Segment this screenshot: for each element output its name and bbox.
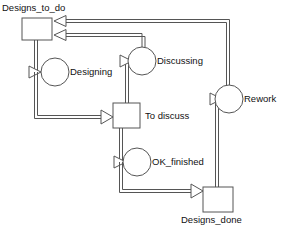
transition-label-designing: Designing xyxy=(70,66,112,77)
place-label-designs-done: Designs_done xyxy=(181,214,242,225)
transition-label-discussing: Discussing xyxy=(157,55,203,66)
transition-label-rework: Rework xyxy=(244,93,276,104)
place-designs_to_do[interactable] xyxy=(22,18,52,40)
place-label-to-discuss: To discuss xyxy=(145,110,189,121)
transition-rework[interactable] xyxy=(215,85,243,113)
place-label-designs-to-do: Designs_to_do xyxy=(2,2,65,13)
transition-designing[interactable] xyxy=(41,58,69,86)
diagram-canvas: Designs_to_do Designing Discussing Rewor… xyxy=(0,0,284,231)
arc-discussing-designs_to_do xyxy=(54,30,145,48)
petri-net-graphic xyxy=(0,0,284,231)
transition-ok_finished[interactable] xyxy=(123,148,151,176)
place-to_discuss[interactable] xyxy=(113,103,140,128)
place-designs_done[interactable] xyxy=(203,187,233,212)
transition-discussing[interactable] xyxy=(128,47,156,75)
transition-label-ok-finished: OK_finished xyxy=(152,156,204,167)
